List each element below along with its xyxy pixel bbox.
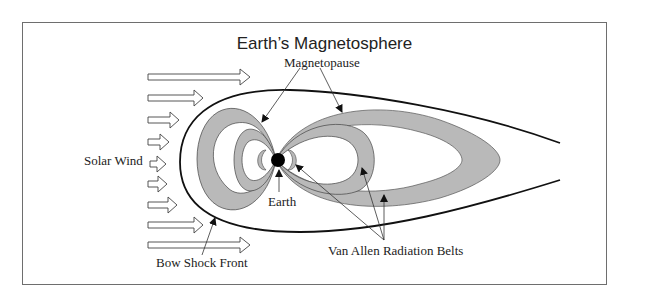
earth-icon: [271, 153, 285, 167]
label-bow-shock-front: Bow Shock Front: [156, 255, 248, 271]
label-van-allen-belts: Van Allen Radiation Belts: [328, 243, 463, 259]
magnetosphere-diagram: [0, 0, 649, 303]
label-earth: Earth: [268, 194, 296, 210]
pointer-bow-shock: [202, 218, 215, 255]
label-solar-wind: Solar Wind: [84, 153, 143, 169]
pointer-magnetopause-left: [262, 68, 300, 122]
belt-inner-right: [276, 124, 374, 194]
pointer-magnetopause-right: [320, 68, 342, 112]
belt-outer-right: [276, 110, 500, 206]
belt-crescent-right: [288, 150, 296, 170]
label-magnetopause: Magnetopause: [284, 55, 360, 71]
belt-crescent-left: [258, 150, 266, 170]
